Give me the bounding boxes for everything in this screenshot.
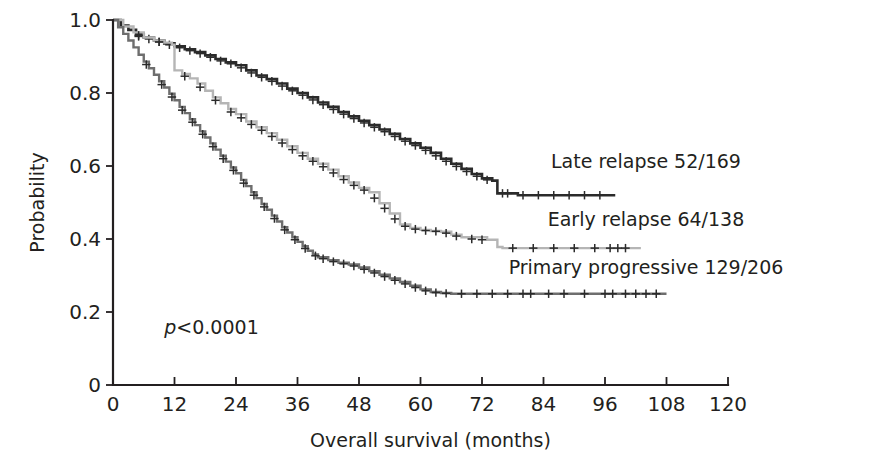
series-late-relapse [113, 20, 615, 199]
x-tick-label: 24 [223, 392, 248, 416]
x-tick-label: 48 [346, 392, 371, 416]
x-tick-label: 108 [647, 392, 685, 416]
series-line [113, 20, 615, 195]
legend-label-early-relapse: Early relapse 64/138 [548, 208, 745, 230]
legend-label-late-relapse: Late relapse 52/169 [551, 150, 741, 172]
y-tick-label: 1.0 [69, 8, 101, 32]
x-tick-label: 36 [285, 392, 310, 416]
x-axis-title: Overall survival (months) [310, 429, 551, 451]
p-value-annotation: p<0.0001 [163, 316, 258, 338]
x-tick-label: 84 [531, 392, 556, 416]
x-tick-label: 60 [408, 392, 433, 416]
x-tick-label: 96 [592, 392, 617, 416]
censor-marks [134, 32, 604, 199]
x-tick-label: 120 [709, 392, 747, 416]
y-tick-label: 0 [88, 373, 101, 397]
y-tick-label: 0.4 [69, 227, 101, 251]
y-tick-label: 0.8 [69, 81, 101, 105]
y-tick-label: 0.2 [69, 300, 101, 324]
x-tick-label: 0 [107, 392, 120, 416]
y-tick-label: 0.6 [69, 154, 101, 178]
x-tick-label: 12 [162, 392, 187, 416]
plot-area: 00.20.40.60.81.001224364860728496108120O… [26, 8, 783, 451]
chart-canvas: 00.20.40.60.81.001224364860728496108120O… [0, 0, 894, 460]
kaplan-meier-chart: 00.20.40.60.81.001224364860728496108120O… [0, 0, 894, 460]
y-axis-title: Probability [26, 152, 48, 252]
x-tick-label: 72 [469, 392, 494, 416]
legend-label-primary-progressive: Primary progressive 129/206 [509, 256, 784, 278]
